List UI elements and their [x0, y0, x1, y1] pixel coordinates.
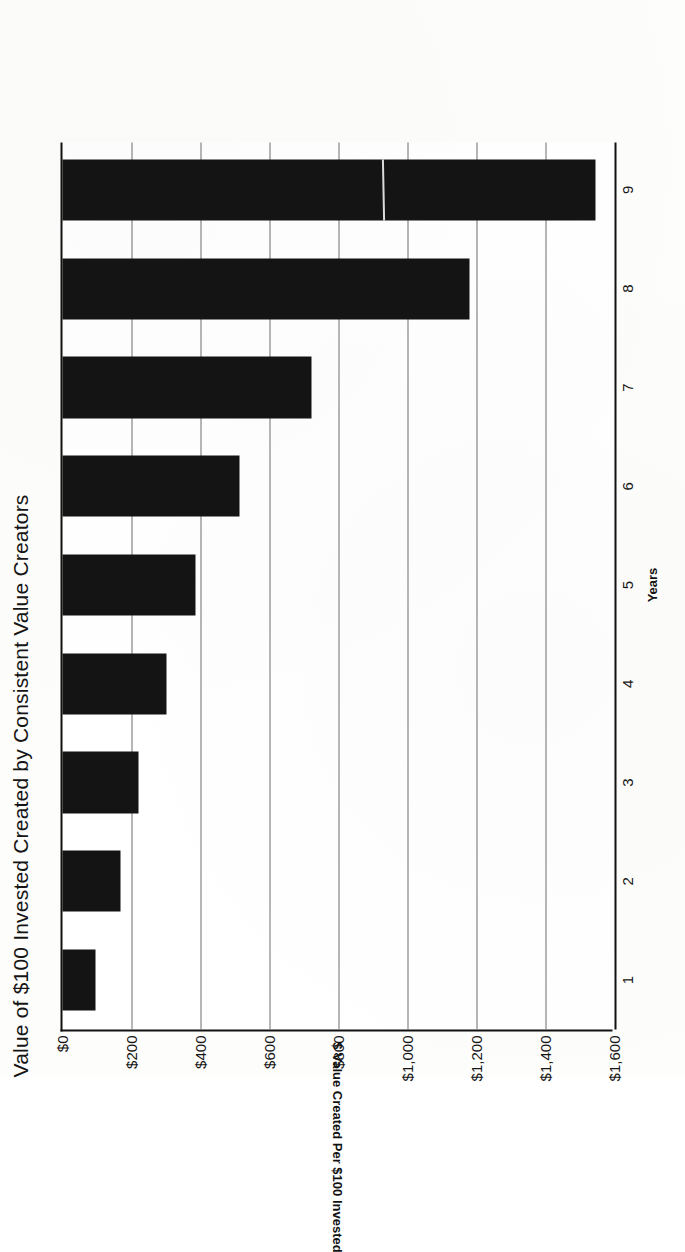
value-tick-label: $1,200 [468, 1035, 485, 1081]
gridline [614, 142, 616, 1029]
category-tick-label: 4 [618, 634, 635, 733]
bar [62, 850, 120, 911]
bar [62, 258, 469, 319]
value-tick-label: $200 [123, 1035, 140, 1068]
bar [62, 751, 138, 812]
category-tick-label: 5 [618, 535, 635, 634]
bar [62, 949, 95, 1010]
value-tick-label: $1,600 [606, 1035, 623, 1081]
category-tick-label: 9 [618, 140, 635, 239]
bar [62, 653, 166, 714]
bar [62, 554, 195, 615]
value-tick-label: $1,400 [537, 1035, 554, 1081]
value-tick-label: $400 [192, 1035, 209, 1068]
value-tick-label: $0 [54, 1035, 71, 1052]
category-tick-label: 2 [618, 831, 635, 930]
category-tick-label: 6 [618, 436, 635, 535]
category-tick-label: 1 [618, 930, 635, 1029]
value-tick-label: $600 [261, 1035, 278, 1068]
category-axis-title: Years [644, 535, 659, 634]
gridline [545, 142, 546, 1029]
category-tick-label: 3 [618, 733, 635, 832]
bar [62, 159, 595, 220]
value-axis-title: $ Value Created Per $100 Invested [330, 1042, 345, 1252]
bar [62, 455, 239, 516]
bar [62, 356, 311, 417]
category-tick-label: 7 [618, 338, 635, 437]
plot-area: $0$200$400$600$800$1,000$1,200$1,400$1,6… [60, 142, 612, 1031]
value-tick-label: $1,000 [399, 1035, 416, 1081]
gridline [476, 142, 477, 1029]
chart-title: Value of $100 Invested Created by Consis… [8, 17, 32, 1077]
category-tick-label: 8 [618, 239, 635, 338]
